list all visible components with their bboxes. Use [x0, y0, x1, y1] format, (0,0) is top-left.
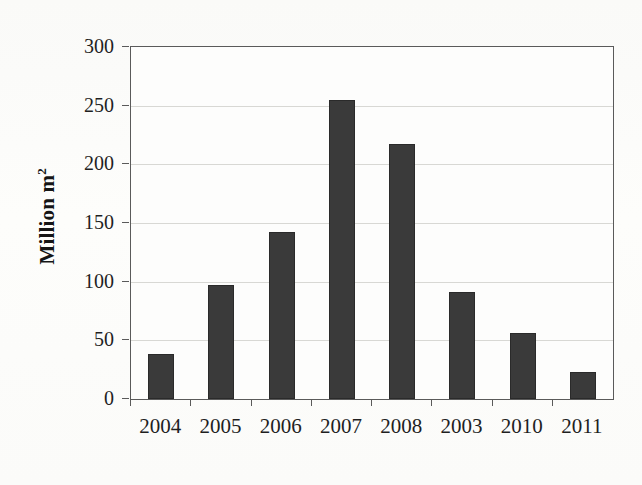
- bar: [389, 144, 415, 399]
- plot-area: [130, 46, 614, 400]
- gridline: [131, 282, 613, 283]
- bar: [329, 100, 355, 399]
- x-axis-tick-marks: [130, 400, 614, 408]
- x-axis-tick-mark: [552, 400, 553, 406]
- y-axis-tick-label: 0: [104, 388, 114, 408]
- bar: [570, 372, 596, 399]
- y-axis-tick-label: 100: [84, 271, 114, 291]
- gridline: [131, 106, 613, 107]
- y-axis-tick-label: 200: [84, 153, 114, 173]
- bar: [148, 354, 174, 399]
- bar: [510, 333, 536, 399]
- x-axis-tick-label: 2005: [199, 416, 241, 437]
- gridline: [131, 340, 613, 341]
- y-axis-tick-mark: [122, 222, 129, 223]
- x-axis-tick-mark: [251, 400, 252, 406]
- bar: [269, 232, 295, 399]
- y-axis-tick-label: 150: [84, 212, 114, 232]
- x-axis-tick-label: 2008: [380, 416, 422, 437]
- x-axis-tick-mark: [431, 400, 432, 406]
- x-axis-tick-mark: [492, 400, 493, 406]
- x-axis-tick-mark: [190, 400, 191, 406]
- gridline: [131, 223, 613, 224]
- x-axis-tick-label: 2011: [561, 416, 602, 437]
- bar: [208, 285, 234, 399]
- chart-figure: Million m2 050100150200250300 2004200520…: [0, 0, 642, 485]
- x-axis-tick-mark: [371, 400, 372, 406]
- y-axis-tick-label: 50: [94, 329, 114, 349]
- bar: [449, 292, 475, 399]
- x-axis-tick-labels: 20042005200620072008200320102011: [130, 416, 614, 450]
- y-axis-tick-label: 300: [84, 36, 114, 56]
- y-axis-tick-mark: [122, 46, 129, 47]
- x-axis-tick-label: 2003: [440, 416, 482, 437]
- y-axis-tick-label: 250: [84, 95, 114, 115]
- y-axis-tick-labels: 050100150200250300: [0, 46, 122, 400]
- y-axis-tick-mark: [122, 339, 129, 340]
- gridline: [131, 164, 613, 165]
- x-axis-tick-label: 2007: [320, 416, 362, 437]
- y-axis-tick-mark: [122, 163, 129, 164]
- x-axis-tick-label: 2010: [501, 416, 543, 437]
- y-axis-tick-mark: [122, 398, 129, 399]
- x-axis-tick-label: 2004: [139, 416, 181, 437]
- x-axis-tick-mark: [130, 400, 131, 406]
- x-axis-tick-mark: [311, 400, 312, 406]
- x-axis-tick-label: 2006: [260, 416, 302, 437]
- y-axis-tick-mark: [122, 281, 129, 282]
- y-axis-tick-mark: [122, 105, 129, 106]
